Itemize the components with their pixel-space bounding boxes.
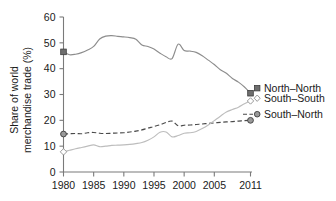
legend: North–North South–South South–North [243,82,325,120]
x-tick-label: 2000 [172,179,196,191]
filled-circle-icon [61,131,67,137]
y-tick-label: 50 [44,37,56,49]
legend-item-south-north: South–North [243,108,323,120]
chart-container: Share of world merchandise trade (%) 010… [0,0,336,201]
legend-item-south-south: South–South [254,92,325,104]
y-tick-label: 10 [44,140,56,152]
axes [64,17,253,172]
y-tick-label: 20 [44,114,56,126]
open-diamond-icon [254,95,260,101]
y-tick-label: 60 [44,11,56,23]
filled-square-icon [255,86,260,91]
y-axis-label-line1: Share of world [8,66,20,134]
x-tick-label: 2005 [203,179,227,191]
y-tick-label: 0 [50,166,56,178]
filled-square-icon [248,90,254,96]
legend-label-south-north: South–North [264,108,323,120]
x-tick-label: 1990 [112,179,136,191]
open-diamond-icon [60,149,66,155]
filled-circle-icon [254,111,260,117]
x-tick-label: 1995 [142,179,166,191]
series-line-north-north [64,36,251,94]
series-line-south-north [64,120,251,134]
filled-circle-icon [248,117,254,123]
series-line-south-south [64,101,251,152]
y-tick-label: 30 [44,88,56,100]
x-tick-label: 1980 [52,179,76,191]
legend-label-south-south: South–South [264,92,325,104]
line-chart: Share of world merchandise trade (%) 010… [0,0,336,201]
open-diamond-icon [247,98,253,104]
series-endpoint-markers [60,49,253,155]
filled-square-icon [61,49,67,55]
x-tick-label: 1985 [82,179,106,191]
y-axis-label-line2: merchandise trade (%) [21,47,33,153]
series-group [64,36,251,152]
x-axis-ticks: 1980198519901995200020052011 [52,172,262,191]
x-tick-label: 2011 [239,179,262,191]
y-tick-label: 40 [44,62,56,74]
y-axis-label: Share of world merchandise trade (%) [8,47,33,153]
